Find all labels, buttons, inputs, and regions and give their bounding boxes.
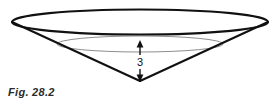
figure-container: 3 Fig. 28.2	[0, 0, 277, 106]
dimension-label: 3	[137, 56, 143, 68]
figure-caption: Fig. 28.2	[8, 86, 55, 98]
